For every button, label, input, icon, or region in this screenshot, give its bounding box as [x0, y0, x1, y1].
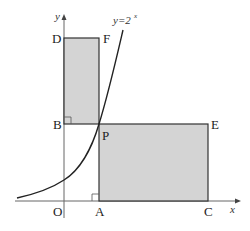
curve-exponent: x [133, 12, 138, 20]
curve-label: y=2 [112, 14, 131, 26]
diagram: y x y=2 x D F B P E O A C [0, 0, 250, 231]
rectangle-APEC [99, 124, 208, 201]
point-D: D [52, 31, 61, 46]
rectangle-BPFD [64, 38, 99, 124]
y-axis-label: y [54, 10, 60, 22]
y-axis-arrow-icon [62, 14, 67, 20]
point-C: C [204, 204, 213, 219]
x-axis-arrow-icon [235, 199, 241, 204]
point-E: E [211, 117, 219, 132]
point-B: B [53, 117, 62, 132]
point-F: F [103, 31, 110, 46]
point-P: P [102, 128, 109, 143]
right-angle-A [92, 194, 99, 201]
point-O: O [53, 204, 62, 219]
point-A: A [95, 204, 105, 219]
x-axis-label: x [229, 203, 235, 215]
